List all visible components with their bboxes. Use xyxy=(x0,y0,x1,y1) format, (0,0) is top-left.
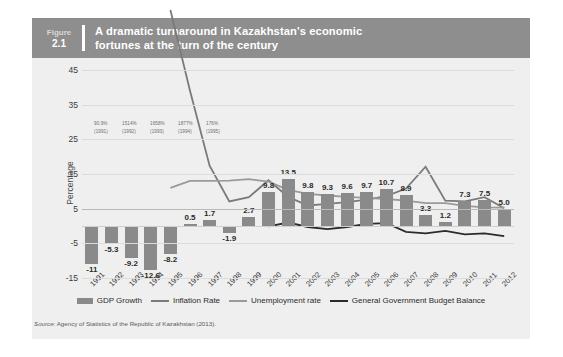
legend-item[interactable]: Inflation Rate xyxy=(151,296,220,305)
annotation-years-row: (1991)(1992)(1993)(1994)(1995) xyxy=(94,128,244,136)
grid-line xyxy=(82,243,514,244)
bar-gdp-growth xyxy=(164,226,177,254)
legend-item[interactable]: Unemployment rate xyxy=(229,296,321,305)
bar-value-label: -1.9 xyxy=(212,234,246,243)
annotation-value: 176% xyxy=(206,120,230,128)
zero-baseline xyxy=(82,226,514,227)
y-tick-label: 45 xyxy=(52,65,78,75)
annotation-value: 1514% xyxy=(122,120,146,128)
bar-value-label: 5.0 xyxy=(487,198,521,207)
figure-label: Figure xyxy=(36,27,82,38)
bar-value-label: 1.2 xyxy=(428,211,462,220)
legend-label: Unemployment rate xyxy=(251,296,321,305)
annotation-year: (1991) xyxy=(94,128,118,136)
y-tick-label: 25 xyxy=(52,134,78,144)
y-tick-label: 5 xyxy=(52,204,78,214)
legend-item[interactable]: General Government Budget Balance xyxy=(330,296,485,305)
legend-swatch-line-icon xyxy=(229,300,247,302)
source-text: Agency of Statistics of the Republic of … xyxy=(57,320,216,327)
annotation-value: 1658% xyxy=(150,120,174,128)
chart-panel: Percentage 453525155-5-15 -11-5.3-9.2-12… xyxy=(32,58,530,339)
grid-line xyxy=(82,139,514,140)
bar-value-label: 8.9 xyxy=(389,184,423,193)
grid-line xyxy=(82,105,514,106)
y-tick-label: -5 xyxy=(52,238,78,248)
legend-swatch-line-icon xyxy=(330,300,348,302)
bar-value-label: -11 xyxy=(75,265,109,274)
annotation-value: 90.9% xyxy=(94,120,118,128)
source-prefix: Source: xyxy=(34,320,55,327)
figure-number-block: Figure 2.1 xyxy=(32,27,82,49)
bar-value-label: -5.3 xyxy=(94,245,128,254)
bar-gdp-growth xyxy=(105,226,118,244)
legend-label: General Government Budget Balance xyxy=(352,296,485,305)
y-tick-label: 15 xyxy=(52,169,78,179)
legend-item[interactable]: GDP Growth xyxy=(77,296,142,305)
annotation-values-row: 90.9%1514%1658%1877%176% xyxy=(94,120,244,128)
figure-title-line2: fortunes at the turn of the century xyxy=(95,38,362,52)
grid-line xyxy=(82,209,514,210)
bar-gdp-growth xyxy=(321,194,334,226)
figure-number: 2.1 xyxy=(36,38,82,49)
bar-value-label: -8.2 xyxy=(153,255,187,264)
bar-value-label: 2.7 xyxy=(232,206,266,215)
header-divider xyxy=(82,25,85,51)
chart-legend: GDP GrowthInflation RateUnemployment rat… xyxy=(32,296,530,305)
bar-gdp-growth xyxy=(380,189,393,226)
y-tick-label: -15 xyxy=(52,273,78,283)
figure-title-line1: A dramatic turnaround in Kazakhstan's ec… xyxy=(95,24,362,38)
bar-gdp-growth xyxy=(242,217,255,226)
annotation-year: (1994) xyxy=(178,128,202,136)
grid-line xyxy=(82,174,514,175)
bar-gdp-growth xyxy=(458,201,471,226)
bar-value-label: -9.2 xyxy=(114,259,148,268)
annotation-year: (1995) xyxy=(206,128,230,136)
annotation-year: (1992) xyxy=(122,128,146,136)
legend-label: Inflation Rate xyxy=(173,296,220,305)
figure-header: Figure 2.1 A dramatic turnaround in Kaza… xyxy=(32,18,530,58)
bar-gdp-growth xyxy=(498,209,511,226)
legend-swatch-bar-icon xyxy=(77,298,93,304)
source-note: Source: Agency of Statistics of the Repu… xyxy=(34,320,216,327)
annotation-value: 1877% xyxy=(178,120,202,128)
bar-value-label: 1.7 xyxy=(193,209,227,218)
bar-gdp-growth xyxy=(125,226,138,258)
figure-title: A dramatic turnaround in Kazakhstan's ec… xyxy=(95,24,362,52)
bar-value-label: 9.8 xyxy=(252,181,286,190)
bar-value-label: 13.5 xyxy=(271,168,305,177)
legend-swatch-line-icon xyxy=(151,300,169,302)
annotation-year: (1993) xyxy=(150,128,174,136)
bar-value-label: 7.5 xyxy=(468,189,502,198)
y-tick-label: 35 xyxy=(52,100,78,110)
hyperinflation-annotation: 90.9%1514%1658%1877%176% (1991)(1992)(19… xyxy=(94,120,244,137)
grid-line xyxy=(82,70,514,71)
legend-label: GDP Growth xyxy=(97,296,142,305)
grid-line xyxy=(82,278,514,279)
figure-page: Figure 2.1 A dramatic turnaround in Kaza… xyxy=(0,0,563,357)
